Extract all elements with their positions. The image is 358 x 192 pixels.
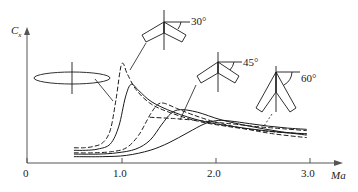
x-axis-arrow <box>334 160 343 166</box>
leader-45 <box>180 85 196 120</box>
y-axis-label: Cx <box>11 25 21 39</box>
wing30-right-panel <box>164 22 186 42</box>
wing60-right-panel <box>276 72 296 112</box>
x-tick-label-1-0: 1.0 <box>113 168 127 179</box>
figure-canvas: Cx 0 1.0 2.0 3.0 Ma 30° 45° 60° <box>0 0 358 192</box>
wing45-left-panel <box>197 62 218 83</box>
chart-plot <box>0 0 358 192</box>
curve-4 <box>74 120 306 156</box>
angle-label-60: 60° <box>301 73 316 84</box>
leader-30 <box>130 43 146 70</box>
wing45-angle-arc <box>230 62 234 70</box>
wing-icon-60 <box>256 66 300 112</box>
wing-icon-45 <box>197 52 242 92</box>
axes <box>24 27 343 166</box>
wing-icon-straight <box>34 62 110 94</box>
x-tick-label-2-0: 2.0 <box>207 168 221 179</box>
curve-1 <box>74 84 306 150</box>
angle-label-45: 45° <box>243 57 258 68</box>
wing60-left-panel <box>256 72 276 112</box>
curve-0 <box>74 63 306 148</box>
wing-icon-30 <box>142 10 190 50</box>
angle-label-30: 30° <box>191 16 206 27</box>
x-tick-label-0: 0 <box>23 168 29 179</box>
curve-5 <box>150 117 306 130</box>
x-tick-label-3-0: 3.0 <box>301 168 315 179</box>
wing45-right-panel <box>218 62 239 83</box>
y-axis-sublabel: x <box>18 31 21 39</box>
wing30-left-panel <box>142 22 164 42</box>
x-axis-label: Ma <box>331 170 346 181</box>
wing60-angle-arc <box>284 72 292 85</box>
wing30-angle-arc <box>178 22 181 29</box>
y-axis-arrow <box>24 27 30 35</box>
